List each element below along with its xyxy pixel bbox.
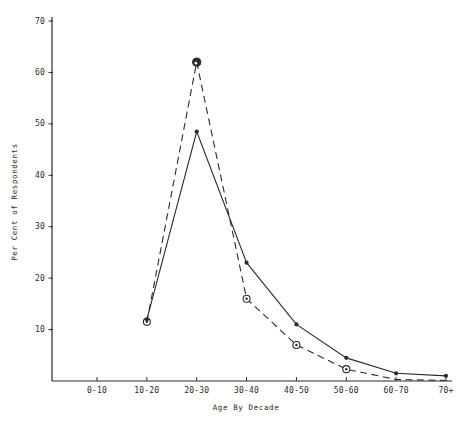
y-tick-label: 10 — [35, 325, 45, 334]
dashed-line-circled-dots-path — [147, 62, 446, 380]
y-tick-label: 70 — [35, 17, 45, 26]
y-axis-title: Per Cent of Respondents — [10, 143, 19, 261]
y-tick-label: 50 — [35, 119, 45, 128]
filled-dot-marker — [444, 374, 448, 378]
marker-center-dot — [295, 344, 297, 346]
chart-figure: 102030405060700-1010-2020-3030-4040-5050… — [0, 0, 464, 423]
filled-dot-marker — [244, 261, 248, 265]
x-tick-label: 0-10 — [87, 386, 107, 395]
y-tick-label: 40 — [35, 171, 45, 180]
x-tick-label: 10-20 — [134, 386, 159, 395]
filled-dot-marker — [394, 371, 398, 375]
x-tick-label: 30-40 — [234, 386, 259, 395]
filled-dot-marker — [294, 322, 298, 326]
filled-dot-marker — [195, 129, 199, 133]
chart-canvas: 102030405060700-1010-2020-3030-4040-5050… — [0, 0, 464, 423]
marker-center-dot — [245, 298, 247, 300]
x-axis-title: Age By Decade — [213, 403, 280, 412]
x-tick-label: 40-50 — [284, 386, 309, 395]
y-tick-label: 20 — [35, 274, 45, 283]
solid-line-filled-dots-path — [147, 132, 446, 376]
x-tick-label: 70+ — [438, 386, 453, 395]
filled-dot-marker — [145, 317, 149, 321]
x-tick-label: 60-70 — [384, 386, 409, 395]
filled-dot-marker — [344, 356, 348, 360]
x-tick-label: 50-60 — [334, 386, 359, 395]
y-tick-label: 60 — [35, 68, 45, 77]
marker-highlight — [195, 62, 198, 65]
marker-center-dot — [345, 368, 347, 370]
x-tick-label: 20-30 — [184, 386, 209, 395]
y-tick-label: 30 — [35, 222, 45, 231]
